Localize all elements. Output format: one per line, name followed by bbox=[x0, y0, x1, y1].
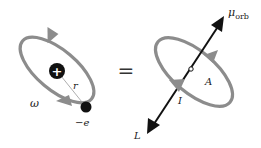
magnetic-moment-arrowhead-icon bbox=[211, 16, 224, 32]
magnetic-moment-subscript: orb bbox=[235, 12, 249, 21]
orbital-magnetic-moment-diagram: + r ω −e = μorb A I L bbox=[0, 0, 261, 148]
nucleus-plus-symbol: + bbox=[52, 64, 63, 79]
loop-center-point bbox=[189, 67, 193, 71]
electron-orbit-panel: + r ω −e bbox=[10, 26, 105, 128]
current-loop-panel: μorb A I L bbox=[133, 6, 249, 141]
magnetic-moment-symbol: μ bbox=[228, 6, 235, 19]
current-direction-arrow-upper-icon bbox=[204, 50, 218, 63]
electron bbox=[81, 102, 92, 113]
electron-charge-label: −e bbox=[75, 117, 89, 128]
equals-sign: = bbox=[118, 58, 135, 82]
area-label: A bbox=[204, 76, 212, 87]
radius-label: r bbox=[73, 80, 79, 91]
magnetic-moment-label: μorb bbox=[228, 6, 249, 21]
angular-momentum-arrowhead-icon bbox=[147, 118, 160, 134]
angular-velocity-label: ω bbox=[30, 97, 39, 110]
angular-momentum-label: L bbox=[133, 130, 141, 141]
current-loop-ellipse bbox=[144, 26, 243, 119]
current-label: I bbox=[177, 95, 183, 106]
